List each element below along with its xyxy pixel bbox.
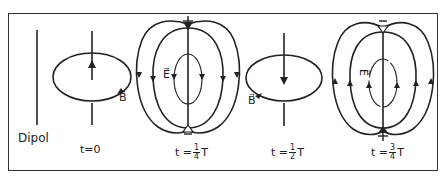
field-arrow-up-icon [366,82,372,88]
b-field-label: B⃗ [248,94,256,107]
field-arrow-up-icon [347,80,353,86]
period-symbol: T [201,146,208,159]
current-arrow-down-icon [280,77,288,85]
period-symbol: T [297,146,304,159]
time-prefix: t= [80,143,94,156]
denominator: 2 [289,153,296,161]
current-arrow-up-icon [88,60,96,68]
outer-field-loop-right [383,23,433,135]
field-arrow-up-icon [413,80,419,86]
outer-field-loop-right [188,21,239,133]
time-label-three-quarter: t =34T [371,144,404,161]
fraction: 34 [389,144,396,161]
denominator: 4 [389,153,396,161]
field-arrow-up-icon [394,82,400,88]
time-prefix: t = [271,146,288,159]
period-symbol: T [397,146,404,159]
field-arrow-down-icon [150,76,156,82]
b-field-label: B⃗ [119,91,127,104]
time-prefix: t = [175,146,192,159]
field-arrow-down-icon [199,74,205,80]
denominator: 4 [193,153,200,161]
time-prefix: t = [371,146,388,159]
time-label-t0: t=0 [80,143,101,156]
time-value: 0 [94,143,101,156]
dipole-label: Dipol [18,131,49,145]
e-field-label: E⃗ [357,69,370,76]
fraction: 14 [193,144,200,161]
e-field-label: E⃗ [163,68,170,81]
time-label-half: t =12T [271,144,304,161]
fraction: 12 [289,144,296,161]
time-label-quarter: t =14T [175,144,208,161]
field-arrow-down-icon [171,74,177,80]
field-arrow-down-icon [220,76,226,82]
outer-field-loop-left [333,23,383,135]
